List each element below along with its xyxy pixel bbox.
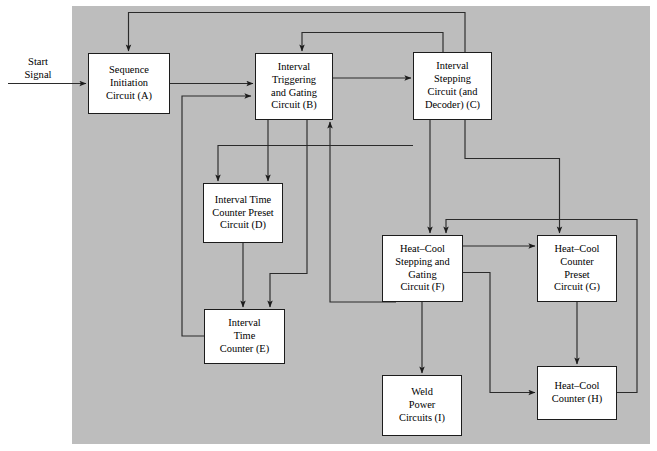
node-e-label: Interval Time Counter (E) [220,317,269,355]
node-heat-cool-counter-h[interactable]: Heat–Cool Counter (H) [537,366,617,420]
node-interval-triggering-gating-circuit-b[interactable]: Interval Triggering and Gating Circuit (… [255,53,333,120]
start-signal-label: Start Signal [6,56,70,82]
node-heat-cool-counter-preset-circuit-g[interactable]: Heat–Cool Counter Preset Circuit (G) [537,235,617,302]
node-sequence-initiation-circuit-a[interactable]: Sequence Initiation Circuit (A) [88,53,170,114]
node-a-label: Sequence Initiation Circuit (A) [106,64,152,102]
node-f-label: Heat–Cool Stepping and Gating Circuit (F… [395,243,450,294]
node-interval-stepping-circuit-c[interactable]: Interval Stepping Circuit (and Decoder) … [413,52,492,120]
node-weld-power-circuits-i[interactable]: Weld Power Circuits (I) [382,375,462,436]
node-d-label: Interval Time Counter Preset Circuit (D) [212,194,273,232]
node-g-label: Heat–Cool Counter Preset Circuit (G) [554,243,600,294]
node-interval-time-counter-preset-circuit-d[interactable]: Interval Time Counter Preset Circuit (D) [203,183,283,243]
wire-c-to-d [218,146,413,182]
node-h-label: Heat–Cool Counter (H) [552,380,603,406]
wire-f-to-h [463,273,535,393]
node-b-label: Interval Triggering and Gating Circuit (… [271,61,317,112]
wire-c-to-g [465,120,560,233]
node-c-label: Interval Stepping Circuit (and Decoder) … [425,60,480,111]
block-diagram-figure: Start Signal Sequence Initiation Circuit… [0,0,657,451]
node-heat-cool-stepping-gating-circuit-f[interactable]: Heat–Cool Stepping and Gating Circuit (F… [382,235,463,302]
node-i-label: Weld Power Circuits (I) [399,386,445,424]
wire-c-to-b-feedback [302,33,443,53]
node-interval-time-counter-e[interactable]: Interval Time Counter (E) [204,309,285,364]
